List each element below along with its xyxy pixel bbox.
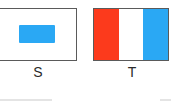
next-row-flag-edge [160, 99, 171, 101]
flag-t-label: T [122, 64, 142, 80]
next-row-flag-edge [0, 99, 52, 101]
flag-t-stripe-blue [143, 9, 168, 60]
flag-t-stripe-white [119, 9, 144, 60]
flag-s-label: S [28, 64, 48, 80]
flag-t-stripe-red [94, 9, 119, 60]
flag-t [93, 8, 169, 61]
flag-s-blue-rectangle [19, 25, 55, 43]
flag-s [0, 8, 77, 61]
